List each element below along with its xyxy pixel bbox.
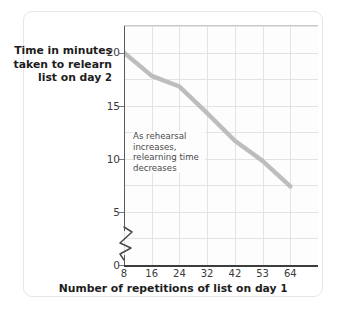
y-axis-title-line1: Time in minutes bbox=[12, 44, 112, 58]
x-tick-labels: 8 16 24 32 42 53 64 bbox=[124, 268, 318, 282]
y-axis-line bbox=[124, 26, 125, 231]
annotation-line-2: increases, bbox=[133, 142, 205, 153]
y-tick-label-10: 10 bbox=[86, 154, 120, 164]
y-axis-title: Time in minutes taken to relearn list on… bbox=[12, 44, 112, 85]
chart-annotation: As rehearsal increases, relearning time … bbox=[133, 131, 205, 173]
x-axis-title: Number of repetitions of list on day 1 bbox=[23, 282, 323, 295]
annotation-line-3: relearning time bbox=[133, 152, 205, 163]
x-tick-label-16: 16 bbox=[145, 268, 158, 280]
x-tick-label-8: 8 bbox=[121, 268, 127, 280]
y-tick-label-5: 5 bbox=[86, 207, 120, 217]
x-tick-label-32: 32 bbox=[201, 268, 214, 280]
y-tick-labels: 20 15 10 5 0 bbox=[84, 0, 120, 280]
y-axis-title-line3: list on day 2 bbox=[12, 71, 112, 85]
x-axis-title-text: Number of repetitions of list on day bbox=[59, 282, 281, 295]
x-tick-label-53: 53 bbox=[256, 268, 269, 280]
y-tick-label-0: 0 bbox=[86, 260, 120, 270]
x-tick-label-64: 64 bbox=[284, 268, 297, 280]
annotation-line-4: decreases bbox=[133, 163, 205, 174]
chart-screenshot: 20 15 10 5 0 8 16 24 32 42 53 64 Time in… bbox=[0, 0, 347, 316]
y-axis-title-line2: taken to relearn bbox=[12, 58, 112, 72]
annotation-line-1: As rehearsal bbox=[133, 131, 205, 142]
x-axis-line bbox=[124, 265, 318, 267]
x-tick-label-42: 42 bbox=[229, 268, 242, 280]
y-tick-label-15: 15 bbox=[86, 101, 120, 111]
y-axis-title-line3-text: list on day bbox=[38, 71, 105, 84]
y-axis-title-day-number: 2 bbox=[105, 72, 112, 83]
x-axis-title-day-number: 1 bbox=[280, 283, 287, 294]
x-tick-label-24: 24 bbox=[173, 268, 186, 280]
